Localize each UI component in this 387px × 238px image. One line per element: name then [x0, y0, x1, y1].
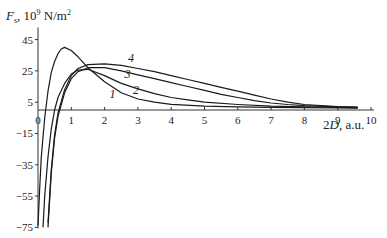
x-tick-label: 3	[135, 114, 141, 126]
y-tick-label: 5	[28, 96, 34, 108]
x-tick-label: 4	[168, 114, 174, 126]
x-tick-label: 2	[102, 114, 108, 126]
x-tick-label: 10	[366, 114, 378, 126]
y-tick-label: 25	[22, 65, 34, 77]
x-tick-label: 6	[235, 114, 241, 126]
curve-3	[48, 68, 358, 228]
x-axis-unit: , a.u.	[339, 117, 364, 132]
force-distance-chart: Fs, 109 N/m2 2D, a.u. 45255−15−35−55−750…	[0, 0, 387, 238]
y-axis-title: Fs, 109 N/m2	[5, 8, 71, 25]
curve-4	[48, 64, 358, 223]
y-axis-exponent2: 2	[67, 8, 71, 17]
x-tick-label: 5	[202, 114, 208, 126]
x-tick-label: 1	[69, 114, 75, 126]
y-tick-label: −55	[16, 190, 34, 202]
curve-label-1: 1	[110, 87, 116, 101]
curve-label-2: 2	[133, 83, 139, 97]
x-tick-label: 0	[35, 114, 41, 126]
svg-text:Fs, 109 N/m2: Fs, 109 N/m2	[5, 8, 71, 25]
svg-text:2D, a.u.: 2D, a.u.	[323, 117, 364, 132]
curve-1	[38, 47, 358, 225]
y-tick-label: −35	[16, 159, 34, 171]
y-tick-label: −75	[16, 221, 34, 233]
x-tick-label: 7	[268, 114, 274, 126]
x-tick-label: 8	[302, 114, 308, 126]
y-tick-label: −15	[16, 127, 34, 139]
y-tick-label: 45	[22, 34, 34, 46]
x-axis-title: 2D, a.u.	[323, 117, 364, 132]
curves	[38, 47, 358, 227]
curve-2	[43, 69, 358, 227]
curve-label-4: 4	[128, 51, 134, 65]
x-tick-label: 9	[335, 114, 341, 126]
y-axis-unit2: N/m	[41, 8, 67, 23]
y-axis-unit: , 10	[17, 8, 37, 23]
curve-label-3: 3	[124, 67, 131, 81]
